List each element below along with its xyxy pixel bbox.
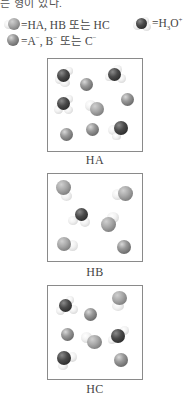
panel-hc [47,285,143,380]
anion-sphere [114,353,128,367]
anion-sphere [84,308,97,321]
anion-sphere [80,78,93,91]
anion-sphere [60,128,73,141]
legend-hydronium: =H3O+ [133,17,183,31]
panel-label-hb: HB [47,265,143,280]
anion-sphere [86,123,99,136]
panel-label-hc: HC [47,382,143,395]
anion-sphere-icon [4,34,20,46]
legend-hydronium-text: =H3O+ [152,16,183,32]
anion-sphere [117,240,131,254]
intro-text: 는 형이 있다. [0,0,62,10]
legend-anion-text: =A−, B− 또는 C− [21,32,97,48]
panel-hb [47,173,143,262]
hydronium-molecule-icon [133,17,151,31]
panel-ha [47,58,143,152]
legend-anion: =A−, B− 또는 C− [4,33,97,47]
legend-acid-text: =HA, HB 또는 HC [21,16,110,32]
anion-sphere [61,328,74,341]
panel-label-ha: HA [47,153,143,168]
acid-molecule-icon [4,18,20,30]
legend-acid: =HA, HB 또는 HC [4,17,110,31]
anion-sphere [121,93,134,106]
